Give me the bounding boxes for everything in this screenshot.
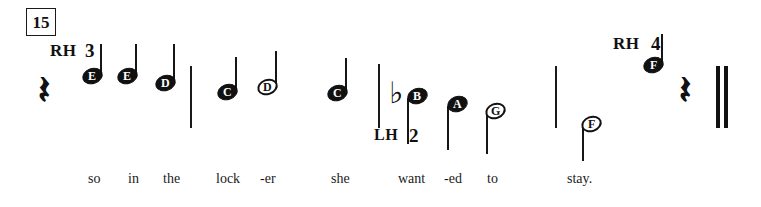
- lyric-stay: stay.: [567, 172, 592, 186]
- note-d-2-stem: [275, 51, 277, 89]
- final-barline-stroke-2: [724, 66, 728, 128]
- measure-number-box: 15: [26, 8, 56, 36]
- barline-2: [378, 64, 380, 128]
- rh-label-left: RH: [50, 42, 77, 59]
- note-c-1: C: [0, 0, 761, 207]
- lh-label: LH: [374, 127, 398, 143]
- note-c-2-stem: [345, 58, 347, 95]
- note-c-1-stem: [235, 57, 237, 94]
- barline-3: [555, 66, 557, 128]
- note-c-2-head: C: [325, 82, 350, 104]
- note-f-1-stem: [582, 127, 584, 161]
- lyric-ed: -ed: [444, 172, 462, 186]
- note-d-2-head: D: [255, 76, 280, 98]
- finger-3: 3: [85, 41, 95, 60]
- note-b-1-head: B: [405, 85, 430, 107]
- flat-sign-b: ♭: [389, 78, 403, 108]
- lyric-in: in: [128, 172, 139, 186]
- note-b-1: B: [0, 0, 761, 207]
- quarter-rest-2: 𝄽: [679, 70, 691, 110]
- lyric-lock: lock: [216, 172, 240, 186]
- barline-1: [190, 66, 192, 128]
- note-f-2: F: [0, 0, 761, 207]
- note-f-1: F: [0, 0, 761, 207]
- note-f-2-head: F: [641, 54, 666, 76]
- lyric-er: -er: [260, 172, 276, 186]
- final-barline: [716, 66, 728, 128]
- note-a-1: A: [0, 0, 761, 207]
- note-a-1-head: A: [445, 93, 470, 115]
- lyric-she: she: [331, 172, 350, 186]
- note-d-1-head: D: [153, 72, 178, 94]
- finger-2: 2: [409, 126, 419, 145]
- note-a-1-stem: [447, 106, 449, 150]
- note-g-1: G: [0, 0, 761, 207]
- note-f-1-head: F: [579, 113, 604, 135]
- note-d-2: D: [0, 0, 761, 207]
- lyric-to: to: [487, 172, 498, 186]
- note-e-2-head: E: [115, 65, 140, 87]
- note-g-1-stem: [486, 114, 488, 154]
- note-d-1-stem: [173, 44, 175, 85]
- quarter-rest-1: 𝄽: [38, 70, 50, 110]
- note-e-1-head: E: [80, 65, 105, 87]
- rh-label-right: RH: [613, 35, 640, 52]
- lyric-the: the: [163, 172, 180, 186]
- measure-number-label: 15: [33, 14, 50, 31]
- finger-4: 4: [651, 34, 661, 53]
- final-barline-stroke-1: [716, 66, 720, 128]
- note-f-2-stem: [661, 34, 663, 67]
- note-g-1-head: G: [483, 100, 508, 122]
- lyric-so: so: [88, 172, 100, 186]
- note-e-2-stem: [135, 44, 137, 78]
- music-notation-sheet: 15 RHLHRH 324 𝄽𝄽 ♭ EEDCDCBAGFF sointhelo…: [0, 0, 761, 207]
- note-e-1: E: [0, 0, 761, 207]
- lyric-want: want: [398, 172, 425, 186]
- note-c-1-head: C: [215, 81, 240, 103]
- note-d-1: D: [0, 0, 761, 207]
- note-e-1-stem: [100, 44, 102, 78]
- note-c-2: C: [0, 0, 761, 207]
- note-e-2: E: [0, 0, 761, 207]
